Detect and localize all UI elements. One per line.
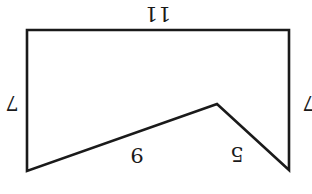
label-left-side: 7 <box>5 91 18 115</box>
polygon-diagram: 11 7 7 9 5 <box>0 0 312 194</box>
label-short-slant-side: 5 <box>230 142 243 166</box>
label-top-side: 11 <box>145 2 172 26</box>
polygon-shape <box>27 30 289 171</box>
label-long-slant-side: 9 <box>130 143 143 167</box>
label-right-side: 7 <box>302 91 312 115</box>
